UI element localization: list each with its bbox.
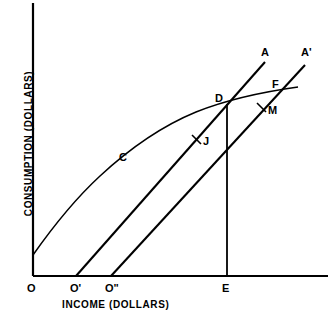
consumption-curve-c [33,87,298,255]
x-tick-label-e: E [222,283,229,294]
x-tick-label-o-double-prime: O" [105,283,119,294]
point-label-m: M [268,105,277,116]
point-label-f: F [272,79,279,90]
point-label-d: D [215,93,223,104]
x-tick-label-o-prime: O' [70,283,81,294]
point-label-j: J [203,136,209,147]
x-axis-title: INCOME (DOLLARS) [62,299,169,310]
x-tick-label-origin: O [27,283,36,294]
plot-canvas [0,0,328,315]
curve-label-c: C [119,152,127,163]
consumption-income-diagram: CONSUMPTION (DOLLARS) INCOME (DOLLARS) O… [0,0,328,315]
y-axis-title: CONSUMPTION (DOLLARS) [23,59,34,229]
curve-label-a-prime: A' [301,47,312,58]
line-a-prime [111,65,305,276]
curve-label-a: A [261,47,269,58]
line-a [76,62,265,276]
